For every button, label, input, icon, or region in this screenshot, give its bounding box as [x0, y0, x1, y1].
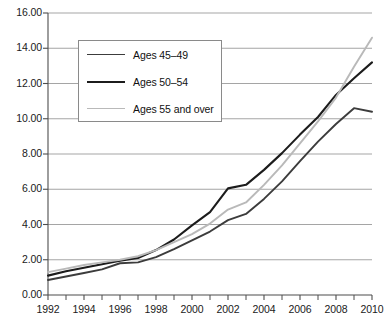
legend-label-ages-45-49: Ages 45–49 — [133, 49, 188, 61]
legend-item-ages-50-54: Ages 50–54 — [79, 68, 221, 95]
y-axis-tick-label: 0.00 — [2, 288, 42, 300]
y-axis-tick-label: 10.00 — [2, 112, 42, 124]
series-line-0 — [48, 108, 372, 280]
x-axis-tick-label: 2000 — [175, 303, 209, 315]
x-axis-tick-label: 2008 — [319, 303, 353, 315]
y-axis-ticks — [43, 13, 48, 295]
x-axis-minor-ticks — [66, 295, 354, 300]
y-axis-tick-label: 4.00 — [2, 218, 42, 230]
x-axis-tick-label: 2002 — [211, 303, 245, 315]
legend-label-ages-50-54: Ages 50–54 — [133, 76, 188, 88]
y-axis-tick-label: 12.00 — [2, 77, 42, 89]
y-axis-tick-label: 2.00 — [2, 253, 42, 265]
chart-legend: Ages 45–49 Ages 50–54 Ages 55 and over — [78, 40, 222, 122]
x-axis-tick-label: 1996 — [103, 303, 137, 315]
legend-swatch-ages-55-and-over — [79, 108, 133, 109]
legend-swatch-ages-50-54 — [79, 81, 133, 83]
x-axis-tick-label: 1992 — [31, 303, 65, 315]
x-axis-tick-label: 1994 — [67, 303, 101, 315]
x-axis-tick-label: 2006 — [283, 303, 317, 315]
x-axis-tick-label: 2004 — [247, 303, 281, 315]
y-axis-tick-label: 6.00 — [2, 182, 42, 194]
legend-swatch-ages-45-49 — [79, 54, 133, 55]
legend-item-ages-55-and-over: Ages 55 and over — [79, 95, 221, 122]
legend-item-ages-45-49: Ages 45–49 — [79, 41, 221, 68]
y-axis-tick-label: 14.00 — [2, 41, 42, 53]
y-axis-tick-label: 8.00 — [2, 147, 42, 159]
x-axis-tick-label: 2010 — [355, 303, 388, 315]
legend-label-ages-55-and-over: Ages 55 and over — [133, 103, 214, 115]
y-axis-tick-label: 16.00 — [2, 6, 42, 18]
x-axis-tick-label: 1998 — [139, 303, 173, 315]
